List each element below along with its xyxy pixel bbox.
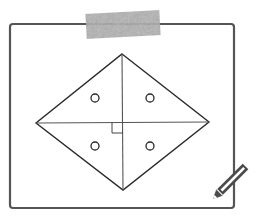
tape-strip (85, 10, 160, 39)
hole-1 (91, 94, 99, 102)
hole-3 (91, 142, 99, 150)
diagram-canvas (0, 0, 258, 217)
right-angle-marker (112, 122, 123, 133)
horizontal-diagonal (36, 122, 209, 123)
hole-4 (146, 142, 154, 150)
hole-2 (146, 94, 154, 102)
pencil-icon[interactable] (210, 164, 248, 202)
